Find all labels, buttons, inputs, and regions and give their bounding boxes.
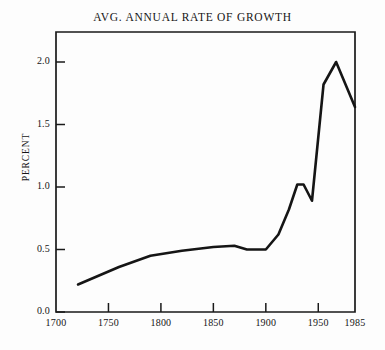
axis-frame xyxy=(56,32,355,312)
data-series-group xyxy=(78,62,355,285)
y-tick-marks xyxy=(56,62,65,312)
x-tick-marks xyxy=(108,303,318,312)
series-line-growth xyxy=(78,62,355,285)
growth-rate-chart: AVG. ANNUAL RATE OF GROWTH PERCENT 0.00.… xyxy=(0,0,385,350)
plot-area xyxy=(0,0,385,350)
